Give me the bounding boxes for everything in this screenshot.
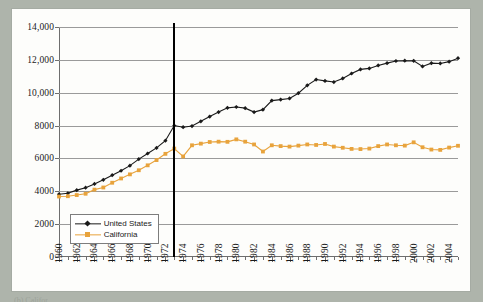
x-axis-tick <box>174 257 175 260</box>
data-point <box>430 148 434 152</box>
data-point <box>234 105 238 109</box>
data-point <box>101 178 105 182</box>
data-point <box>181 125 185 129</box>
data-point <box>137 168 141 172</box>
data-point <box>155 158 159 162</box>
data-point <box>208 140 212 144</box>
legend-item[interactable]: California <box>75 229 152 240</box>
data-point <box>146 163 150 167</box>
x-axis-tick <box>458 257 459 260</box>
data-point <box>456 144 460 148</box>
data-point <box>261 150 265 154</box>
data-point <box>394 59 398 63</box>
data-point <box>332 145 336 149</box>
x-axis-tick <box>316 257 317 260</box>
data-point <box>75 193 79 197</box>
data-point <box>199 119 203 123</box>
data-point <box>358 67 362 71</box>
data-point <box>341 146 345 150</box>
x-axis-tick <box>121 257 122 260</box>
x-axis-tick <box>157 257 158 260</box>
series-california <box>57 137 460 198</box>
data-point <box>75 188 79 192</box>
y-axis-tick-label: 12,000 <box>27 55 54 65</box>
data-point <box>323 142 327 146</box>
y-axis-tick-label: 8000 <box>35 121 54 131</box>
x-axis-tick <box>369 257 370 260</box>
x-axis-tick <box>405 257 406 260</box>
data-point <box>341 76 345 80</box>
data-point <box>279 98 283 102</box>
data-point <box>447 146 451 150</box>
data-point <box>243 106 247 110</box>
x-axis-tick <box>281 257 282 260</box>
data-point <box>394 143 398 147</box>
data-point <box>164 152 168 156</box>
data-point <box>252 143 256 147</box>
legend-item[interactable]: United States <box>75 218 152 229</box>
chart-legend: United States California <box>70 214 159 244</box>
x-axis-tick <box>263 257 264 260</box>
data-point <box>217 140 221 144</box>
data-point <box>217 110 221 114</box>
y-axis-tick-label: 2000 <box>35 219 54 229</box>
x-axis-tick <box>387 257 388 260</box>
x-axis-tick <box>210 257 211 260</box>
data-point <box>110 181 114 185</box>
data-point <box>288 145 292 149</box>
data-point <box>101 186 105 190</box>
line-chart: 0200040006000800010,00012,00014,000 1960… <box>12 9 470 291</box>
data-point <box>243 140 247 144</box>
x-axis-tick <box>245 257 246 260</box>
plot-area: 0200040006000800010,00012,00014,000 1960… <box>59 27 458 257</box>
data-point <box>93 188 97 192</box>
data-point <box>66 194 70 198</box>
x-axis-tick <box>68 257 69 260</box>
data-point <box>225 106 229 110</box>
data-point <box>84 186 88 190</box>
data-point <box>385 143 389 147</box>
vertical-reference-line <box>173 23 175 257</box>
x-axis-tick <box>227 257 228 260</box>
x-axis-tick <box>139 257 140 260</box>
data-point <box>181 155 185 159</box>
data-point <box>190 143 194 147</box>
y-axis-tick-label: 6000 <box>35 153 54 163</box>
x-axis-tick <box>86 257 87 260</box>
data-point <box>252 110 256 114</box>
data-point <box>447 60 451 64</box>
data-point <box>84 192 88 196</box>
data-point <box>234 137 238 141</box>
data-point <box>438 61 442 65</box>
legend-label-california: California <box>104 230 138 239</box>
data-point <box>403 59 407 63</box>
data-point <box>421 145 425 149</box>
x-axis-tick <box>352 257 353 260</box>
data-point <box>332 80 336 84</box>
legend-label-united-states: United States <box>104 219 152 228</box>
data-point <box>279 144 283 148</box>
data-point <box>350 71 354 75</box>
data-point <box>305 143 309 147</box>
data-point <box>297 144 301 148</box>
data-point <box>92 182 96 186</box>
series-united-states <box>57 56 460 196</box>
data-point <box>456 56 460 60</box>
data-point <box>128 172 132 176</box>
x-axis-tick <box>423 257 424 260</box>
data-point <box>429 61 433 65</box>
caption-sliver: (b) Califor <box>14 296 48 302</box>
x-axis-tick <box>192 257 193 260</box>
data-point <box>119 177 123 181</box>
data-point <box>314 143 318 147</box>
data-point <box>412 140 416 144</box>
data-point <box>385 61 389 65</box>
x-axis-tick <box>298 257 299 260</box>
data-point <box>57 195 61 199</box>
data-point <box>323 79 327 83</box>
y-axis-tick-label: 4000 <box>35 186 54 196</box>
y-axis-tick-label: 14,000 <box>27 22 54 32</box>
legend-marker-california <box>75 230 101 240</box>
data-point <box>359 147 363 151</box>
data-point <box>376 63 380 67</box>
